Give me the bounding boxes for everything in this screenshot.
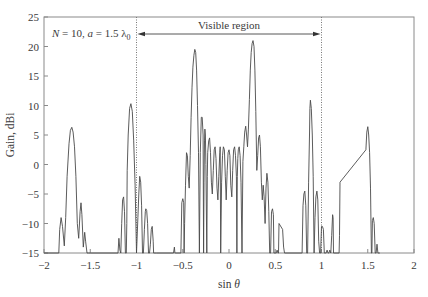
x-tick-label: 0.5 <box>268 259 282 271</box>
y-tick-label: −10 <box>22 218 40 230</box>
visible-region-arrow <box>138 32 321 36</box>
x-tick-label: 0 <box>226 259 232 271</box>
x-tick-label: −1.5 <box>80 259 100 271</box>
y-tick-label: −15 <box>22 247 40 259</box>
gain-chart: −15−10−50510152025 −2−1.5−1−0.500.511.52… <box>0 0 428 297</box>
x-tick-label: 2 <box>411 259 417 271</box>
y-tick-label: −5 <box>27 188 39 200</box>
x-tick-label: −1 <box>131 259 143 271</box>
x-axis-ticks: −2−1.5−1−0.500.511.52 <box>38 249 417 271</box>
x-axis-title: sin θ <box>218 278 240 290</box>
y-tick-label: 25 <box>28 11 40 23</box>
x-tick-label: −0.5 <box>173 259 193 271</box>
x-tick-label: 1 <box>319 259 325 271</box>
y-tick-label: 0 <box>34 159 40 171</box>
y-tick-label: 20 <box>28 41 40 53</box>
arrow-left-icon <box>138 32 146 36</box>
y-tick-label: 10 <box>28 100 40 112</box>
x-tick-label: −2 <box>38 259 50 271</box>
parameters-annotation: N = 10, a = 1.5 λ0 <box>51 27 131 42</box>
gain-curve <box>44 41 380 253</box>
arrow-right-icon <box>313 32 321 36</box>
y-tick-label: 15 <box>28 70 40 82</box>
plot-frame <box>44 17 414 253</box>
y-tick-label: 5 <box>34 129 40 141</box>
visible-region-label: Visible region <box>198 19 260 31</box>
y-axis-title: Gain, dBi <box>4 113 17 158</box>
x-tick-label: 1.5 <box>361 259 375 271</box>
